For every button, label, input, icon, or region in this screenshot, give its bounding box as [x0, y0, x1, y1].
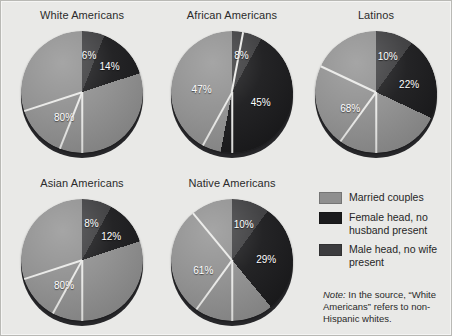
slice-value-label: 47%	[192, 84, 212, 95]
slice-divider	[231, 92, 233, 153]
legend-item-label: Married couples	[349, 191, 424, 204]
pie-chart-title: White Americans	[7, 9, 157, 21]
figure-note: Note: In the source, “White Americans” r…	[323, 289, 449, 325]
pie-graphic: 6%14%80%	[20, 29, 144, 159]
slice-value-label: 45%	[251, 97, 271, 108]
slice-value-label: 14%	[100, 61, 120, 72]
slice-divider	[81, 260, 83, 321]
legend-swatch-female-head	[319, 212, 342, 224]
note-label: Note:	[323, 289, 346, 300]
pie-graphic: 8%12%80%	[20, 197, 144, 327]
legend-item[interactable]: Male head, no wife present	[319, 243, 451, 268]
slice-value-label: 6%	[82, 49, 96, 60]
slice-value-label: 8%	[234, 50, 248, 61]
legend-item-label: Male head, no wife present	[349, 243, 451, 268]
slice-value-label: 10%	[234, 219, 254, 230]
slice-divider	[375, 92, 377, 153]
slice-value-label: 22%	[399, 78, 419, 89]
pie-chart-title: African Americans	[157, 9, 307, 21]
slice-value-label: 61%	[193, 265, 213, 276]
chart-legend: Married couplesFemale head, no husband p…	[319, 191, 451, 275]
slice-value-label: 12%	[101, 230, 121, 241]
pie-disc: 10%22%68%	[315, 31, 437, 153]
pie-graphic: 10%22%68%	[314, 29, 438, 159]
pie-chart-title: Asian Americans	[7, 177, 157, 189]
pie-graphic: 8%45%47%	[170, 29, 294, 159]
slice-divider	[231, 260, 233, 321]
legend-item[interactable]: Female head, no husband present	[319, 211, 451, 236]
pie-disc: 8%12%80%	[21, 199, 143, 321]
legend-swatch-married	[319, 192, 342, 204]
pie-chart-5: Native Americans10%29%61%	[157, 173, 307, 333]
slice-value-label: 29%	[256, 253, 276, 264]
pie-chart-title: Latinos	[301, 9, 451, 21]
slice-value-label: 80%	[54, 111, 74, 122]
pie-chart-figure: White Americans6%14%80%African Americans…	[0, 0, 452, 336]
pie-chart-2: African Americans8%45%47%	[157, 5, 307, 165]
pie-disc: 8%45%47%	[171, 31, 293, 153]
pie-chart-title: Native Americans	[157, 177, 307, 189]
charts-area: White Americans6%14%80%African Americans…	[1, 1, 452, 336]
pie-disc: 6%14%80%	[21, 31, 143, 153]
pie-disc: 10%29%61%	[171, 199, 293, 321]
pie-chart-1: White Americans6%14%80%	[7, 5, 157, 165]
pie-graphic: 10%29%61%	[170, 197, 294, 327]
legend-item-label: Female head, no husband present	[349, 211, 451, 236]
slice-value-label: 80%	[54, 279, 74, 290]
slice-value-label: 8%	[84, 218, 98, 229]
legend-item[interactable]: Married couples	[319, 191, 451, 204]
legend-swatch-male-head	[319, 244, 342, 256]
slice-value-label: 10%	[378, 51, 398, 62]
pie-chart-3: Latinos10%22%68%	[301, 5, 451, 165]
slice-divider	[81, 92, 83, 153]
pie-chart-4: Asian Americans8%12%80%	[7, 173, 157, 333]
slice-value-label: 68%	[340, 103, 360, 114]
